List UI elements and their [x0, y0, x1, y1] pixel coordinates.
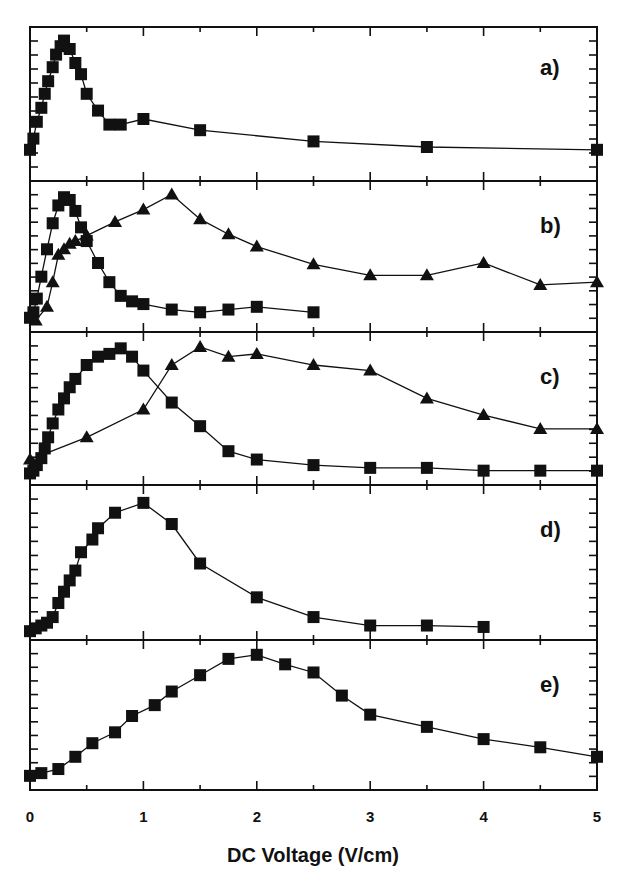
triangle-marker: [533, 278, 547, 290]
square-marker: [137, 298, 149, 310]
square-marker: [149, 699, 161, 711]
square-marker: [47, 217, 59, 229]
square-marker: [35, 102, 47, 114]
x-tick-label: 0: [26, 808, 34, 825]
square-marker: [115, 290, 127, 302]
square-marker: [166, 304, 178, 316]
panel-e: e): [24, 640, 603, 790]
panel-label: a): [540, 55, 560, 80]
square-marker: [421, 620, 433, 632]
square-marker: [69, 205, 81, 217]
square-marker: [421, 141, 433, 153]
triangle-marker: [193, 212, 207, 224]
series-squares: [24, 649, 603, 782]
triangle-marker: [477, 256, 491, 268]
triangle-marker: [136, 203, 150, 215]
square-marker: [137, 497, 149, 509]
square-marker: [194, 420, 206, 432]
square-marker: [64, 194, 76, 206]
square-marker: [24, 770, 36, 782]
square-marker: [69, 373, 81, 385]
square-marker: [166, 686, 178, 698]
panel-label: d): [540, 517, 561, 542]
triangle-marker: [250, 347, 264, 359]
square-marker: [52, 597, 64, 609]
square-marker: [591, 465, 603, 477]
square-marker: [75, 546, 87, 558]
x-tick-label: 5: [593, 808, 601, 825]
square-marker: [222, 653, 234, 665]
square-marker: [364, 620, 376, 632]
triangle-marker: [46, 275, 60, 287]
square-marker: [308, 135, 320, 147]
square-marker: [58, 586, 70, 598]
square-marker: [92, 351, 104, 363]
square-marker: [92, 257, 104, 269]
square-marker: [478, 733, 490, 745]
square-marker: [534, 741, 546, 753]
triangle-marker: [250, 240, 264, 252]
square-marker: [534, 465, 546, 477]
square-marker: [86, 534, 98, 546]
square-marker: [52, 404, 64, 416]
square-marker: [591, 751, 603, 763]
panel-label: c): [540, 364, 560, 389]
square-marker: [137, 365, 149, 377]
square-marker: [308, 459, 320, 471]
square-marker: [47, 611, 59, 623]
stacked-line-chart: a)b)c)d)e) 012345 DC Voltage (V/cm): [0, 0, 619, 884]
square-marker: [308, 306, 320, 318]
triangle-marker: [193, 340, 207, 352]
square-marker: [251, 454, 263, 466]
square-marker: [279, 658, 291, 670]
square-marker: [194, 306, 206, 318]
square-marker: [194, 124, 206, 136]
square-marker: [109, 507, 121, 519]
x-tick-label: 4: [479, 808, 488, 825]
square-marker: [92, 105, 104, 117]
chart-panels: a)b)c)d)e): [23, 27, 604, 790]
square-marker: [81, 359, 93, 371]
square-marker: [58, 392, 70, 404]
series-triangles: [29, 187, 604, 325]
square-marker: [35, 767, 47, 779]
square-marker: [103, 119, 115, 131]
panel-frame: [30, 27, 597, 181]
square-marker: [27, 133, 39, 145]
triangle-marker: [590, 422, 604, 434]
triangle-marker: [221, 227, 235, 239]
square-marker: [308, 611, 320, 623]
x-tick-label: 1: [139, 808, 147, 825]
square-marker: [251, 591, 263, 603]
square-marker: [75, 68, 87, 80]
panel-label: e): [540, 672, 560, 697]
square-marker: [166, 518, 178, 530]
square-marker: [126, 710, 138, 722]
square-marker: [222, 445, 234, 457]
x-tick-label: 2: [253, 808, 261, 825]
square-marker: [478, 621, 490, 633]
square-marker: [69, 565, 81, 577]
square-marker: [115, 119, 127, 131]
square-marker: [251, 301, 263, 313]
square-marker: [92, 522, 104, 534]
square-marker: [109, 726, 121, 738]
square-marker: [42, 431, 54, 443]
panel-label: b): [540, 213, 561, 238]
square-marker: [47, 61, 59, 73]
square-marker: [126, 295, 138, 307]
square-marker: [421, 721, 433, 733]
square-marker: [194, 558, 206, 570]
square-marker: [251, 649, 263, 661]
square-marker: [24, 144, 36, 156]
x-axis: 012345: [26, 808, 601, 825]
square-marker: [42, 75, 54, 87]
square-marker: [27, 306, 39, 318]
square-marker: [364, 462, 376, 474]
square-marker: [69, 751, 81, 763]
square-marker: [69, 57, 81, 69]
square-marker: [64, 43, 76, 55]
triangle-marker: [80, 430, 94, 442]
square-marker: [81, 88, 93, 100]
square-marker: [137, 113, 149, 125]
